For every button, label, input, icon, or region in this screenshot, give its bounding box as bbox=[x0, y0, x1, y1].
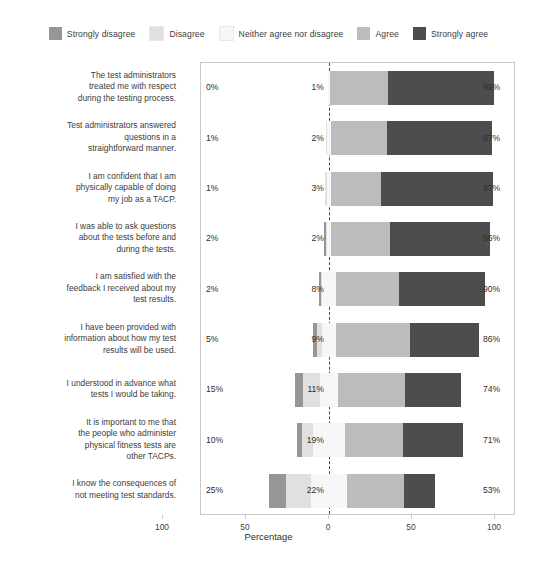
negative-percent-label: 2% bbox=[206, 233, 240, 243]
legend-item-0[interactable]: Strongly disagree bbox=[49, 27, 136, 40]
bar-row bbox=[201, 214, 514, 264]
positive-percent-label: 97% bbox=[483, 133, 523, 143]
category-label-line: I was able to ask questions bbox=[24, 221, 176, 233]
negative-percent-label: 0% bbox=[206, 82, 240, 92]
positive-percent-label: 99% bbox=[483, 82, 523, 92]
negative-percent-label: 1% bbox=[206, 133, 240, 143]
likert-chart: Strongly disagreeDisagreeNeither agree n… bbox=[0, 0, 537, 564]
segment-strongly-disagree bbox=[269, 474, 286, 508]
segment-agree bbox=[336, 272, 399, 306]
segment-agree bbox=[331, 121, 387, 155]
legend-label: Disagree bbox=[169, 29, 204, 39]
category-label-line: straightforward manner. bbox=[24, 143, 176, 155]
neutral-percent-label: 9% bbox=[290, 334, 324, 344]
category-label: I know the consequences ofnot meeting te… bbox=[24, 478, 176, 501]
legend-swatch-icon bbox=[149, 26, 164, 41]
neutral-percent-label: 2% bbox=[290, 133, 324, 143]
axis-tick bbox=[411, 515, 412, 519]
category-label: It is important to me thatthe people who… bbox=[24, 417, 176, 463]
category-label-line: physically capable of doing bbox=[24, 182, 176, 194]
segment-neither-right bbox=[329, 423, 345, 457]
bar-row bbox=[201, 63, 514, 113]
category-label-line: I am confident that I am bbox=[24, 171, 176, 183]
segment-strongly-agree bbox=[405, 373, 461, 407]
bar-row bbox=[201, 264, 514, 314]
category-label-line: Test administrators answered bbox=[24, 120, 176, 132]
legend-label: Agree bbox=[375, 29, 398, 39]
category-label: Test administrators answeredquestions in… bbox=[24, 120, 176, 155]
segment-strongly-agree bbox=[399, 272, 485, 306]
chart-legend: Strongly disagreeDisagreeNeither agree n… bbox=[0, 26, 537, 41]
segment-strongly-agree bbox=[403, 423, 463, 457]
category-label-line: It is important to me that bbox=[24, 417, 176, 429]
category-label-line: information about how my test bbox=[24, 333, 176, 345]
segment-strongly-agree bbox=[387, 121, 492, 155]
bar-row bbox=[201, 466, 514, 516]
category-label-line: I understood in advance what bbox=[24, 378, 176, 390]
category-label-line: feedback I received about my bbox=[24, 283, 176, 295]
legend-item-4[interactable]: Strongly agree bbox=[413, 27, 488, 40]
category-label: I have been provided withinformation abo… bbox=[24, 322, 176, 357]
segment-agree bbox=[330, 71, 388, 105]
category-label-line: physical fitness tests are bbox=[24, 440, 176, 452]
category-label-line: other TACPs. bbox=[24, 451, 176, 463]
neutral-percent-label: 11% bbox=[290, 384, 324, 394]
x-axis: 10050050100 bbox=[200, 515, 515, 516]
bar-row bbox=[201, 365, 514, 415]
legend-swatch-icon bbox=[357, 27, 370, 40]
category-label-line: treated me with respect bbox=[24, 81, 176, 93]
legend-item-2[interactable]: Neither agree nor disagree bbox=[219, 26, 344, 41]
positive-percent-label: 90% bbox=[483, 284, 523, 294]
category-label-line: about the tests before and bbox=[24, 232, 176, 244]
bar-row bbox=[201, 164, 514, 214]
category-label: I was able to ask questionsabout the tes… bbox=[24, 221, 176, 256]
segment-agree bbox=[336, 323, 409, 357]
legend-swatch-icon bbox=[49, 27, 62, 40]
segment-neither-right bbox=[329, 272, 336, 306]
neutral-percent-label: 3% bbox=[290, 183, 324, 193]
negative-percent-label: 25% bbox=[206, 485, 240, 495]
category-label-line: I am satisfied with the bbox=[24, 271, 176, 283]
legend-item-1[interactable]: Disagree bbox=[149, 26, 204, 41]
segment-strongly-agree bbox=[388, 71, 494, 105]
negative-percent-label: 5% bbox=[206, 334, 240, 344]
segment-strongly-agree bbox=[390, 222, 490, 256]
category-label-line: tests I would be taking. bbox=[24, 389, 176, 401]
bar-row bbox=[201, 315, 514, 365]
axis-tick bbox=[494, 515, 495, 519]
neutral-percent-label: 2% bbox=[290, 233, 324, 243]
category-label-line: questions in a bbox=[24, 132, 176, 144]
negative-percent-label: 2% bbox=[206, 284, 240, 294]
positive-percent-label: 86% bbox=[483, 334, 523, 344]
category-label: I understood in advance whattests I woul… bbox=[24, 378, 176, 401]
negative-percent-label: 1% bbox=[206, 183, 240, 193]
category-label-line: during the testing process. bbox=[24, 93, 176, 105]
category-label-line: test results. bbox=[24, 294, 176, 306]
positive-percent-label: 71% bbox=[483, 435, 523, 445]
category-label-line: not meeting test standards. bbox=[24, 490, 176, 502]
segment-agree bbox=[331, 222, 391, 256]
legend-item-3[interactable]: Agree bbox=[357, 27, 398, 40]
category-label-line: results will be used. bbox=[24, 345, 176, 357]
legend-swatch-icon bbox=[413, 27, 426, 40]
bar-row bbox=[201, 113, 514, 163]
segment-agree bbox=[347, 474, 403, 508]
category-label-line: The test administrators bbox=[24, 70, 176, 82]
legend-label: Strongly disagree bbox=[67, 29, 136, 39]
negative-percent-label: 15% bbox=[206, 384, 240, 394]
bar-row bbox=[201, 415, 514, 465]
category-label-line: the people who administer bbox=[24, 428, 176, 440]
segment-agree bbox=[345, 423, 403, 457]
neutral-percent-label: 22% bbox=[290, 485, 324, 495]
legend-swatch-icon bbox=[219, 26, 234, 41]
segment-neither-right bbox=[329, 323, 336, 357]
category-label: The test administratorstreated me with r… bbox=[24, 70, 176, 105]
segment-strongly-agree bbox=[410, 323, 480, 357]
segment-neither-right bbox=[329, 373, 338, 407]
axis-tick bbox=[245, 515, 246, 519]
category-label: I am confident that I amphysically capab… bbox=[24, 171, 176, 206]
neutral-percent-label: 8% bbox=[290, 284, 324, 294]
legend-label: Strongly agree bbox=[431, 29, 488, 39]
legend-label: Neither agree nor disagree bbox=[239, 29, 344, 39]
positive-percent-label: 53% bbox=[483, 485, 523, 495]
